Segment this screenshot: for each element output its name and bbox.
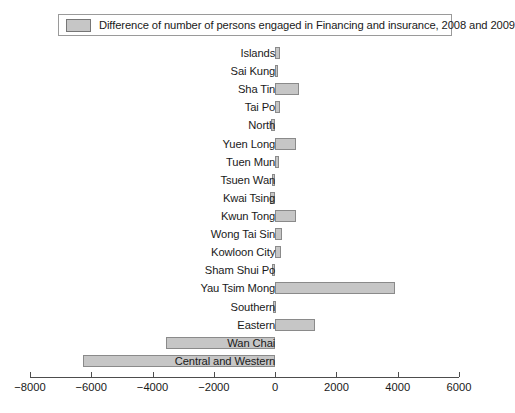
bar-row: Tuen Mun <box>0 153 506 171</box>
x-axis-tick <box>459 372 460 377</box>
x-axis-tick-label: 4000 <box>385 381 410 393</box>
x-axis-tick <box>153 372 154 377</box>
category-label: Islands <box>240 44 275 62</box>
bar-row: Sham Shui Po <box>0 261 506 279</box>
bar <box>275 156 279 168</box>
category-label: Wong Tai Sin <box>211 225 275 243</box>
bar-row: Wan Chai <box>0 334 506 352</box>
category-label: Sham Shui Po <box>205 261 275 279</box>
category-label: Wan Chai <box>227 334 275 352</box>
x-axis-tick <box>336 372 337 377</box>
bar-row: North <box>0 116 506 134</box>
x-axis-tick-label: 2000 <box>324 381 349 393</box>
category-label: Tuen Mun <box>226 153 275 171</box>
bar <box>275 210 296 222</box>
x-axis-tick-label: −6000 <box>76 381 107 393</box>
bar-row: Kwun Tong <box>0 207 506 225</box>
x-axis-tick <box>30 372 31 377</box>
bar-row: Central and Western <box>0 352 506 370</box>
bar-row: Southern <box>0 298 506 316</box>
bar <box>275 228 281 240</box>
x-axis-tick-label: −2000 <box>198 381 229 393</box>
bar-row: Kowloon City <box>0 243 506 261</box>
category-label: Central and Western <box>175 352 276 370</box>
bar <box>275 65 278 77</box>
category-label: Tsuen Wan <box>221 171 276 189</box>
bar-row: Kwai Tsing <box>0 189 506 207</box>
category-label: Yuen Long <box>223 135 276 153</box>
bar-row: Islands <box>0 44 506 62</box>
chart-legend: Difference of number of persons engaged … <box>58 14 452 36</box>
category-label: Sha Tin <box>238 80 275 98</box>
legend-swatch-icon <box>66 19 91 32</box>
legend-label: Difference of number of persons engaged … <box>99 19 515 31</box>
category-label: Kwun Tong <box>221 207 275 225</box>
category-label: Kowloon City <box>211 243 275 261</box>
x-axis-tick-label: −4000 <box>137 381 168 393</box>
bar-row: Tai Po <box>0 98 506 116</box>
bar-row: Wong Tai Sin <box>0 225 506 243</box>
x-axis-tick <box>214 372 215 377</box>
category-label: Yau Tsim Mong <box>200 279 275 297</box>
x-axis-tick-label: −8000 <box>14 381 45 393</box>
category-label: Southern <box>231 298 276 316</box>
bar <box>275 282 395 294</box>
bar <box>275 138 296 150</box>
category-label: Kwai Tsing <box>223 189 275 207</box>
x-axis-line <box>30 377 459 378</box>
x-axis-tick <box>91 372 92 377</box>
category-label: Sai Kung <box>231 62 276 80</box>
bar <box>275 83 299 95</box>
x-axis-tick-label: 6000 <box>447 381 472 393</box>
bar-row: Yau Tsim Mong <box>0 279 506 297</box>
category-label: North <box>248 116 275 134</box>
bar <box>275 319 315 331</box>
bar-row: Sha Tin <box>0 80 506 98</box>
bar-chart-plot-area: IslandsSai KungSha TinTai PoNorthYuen Lo… <box>0 44 506 370</box>
bar-row: Yuen Long <box>0 135 506 153</box>
bar <box>275 101 280 113</box>
bar-row: Tsuen Wan <box>0 171 506 189</box>
bar <box>275 47 280 59</box>
bar-row: Eastern <box>0 316 506 334</box>
category-label: Tai Po <box>245 98 276 116</box>
category-label: Eastern <box>237 316 275 334</box>
x-axis-tick <box>275 372 276 377</box>
bar-row: Sai Kung <box>0 62 506 80</box>
bar <box>275 246 281 258</box>
x-axis-tick-label: 0 <box>272 381 278 393</box>
x-axis-tick <box>398 372 399 377</box>
